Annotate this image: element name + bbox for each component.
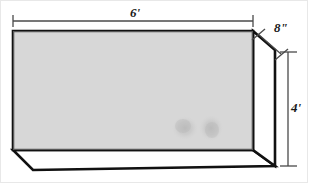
height-dimension-label: 4' [291, 101, 301, 114]
stain-blotch-left-core [175, 119, 191, 133]
bottom-face [13, 150, 275, 170]
side-face [253, 31, 275, 166]
stain-blotch-right-core [205, 122, 219, 138]
figure-canvas: 6' 8" 4' [0, 0, 309, 184]
slab-diagram [0, 0, 309, 184]
depth-dimension-label: 8" [274, 21, 288, 34]
width-dimension-label: 6' [130, 6, 140, 19]
